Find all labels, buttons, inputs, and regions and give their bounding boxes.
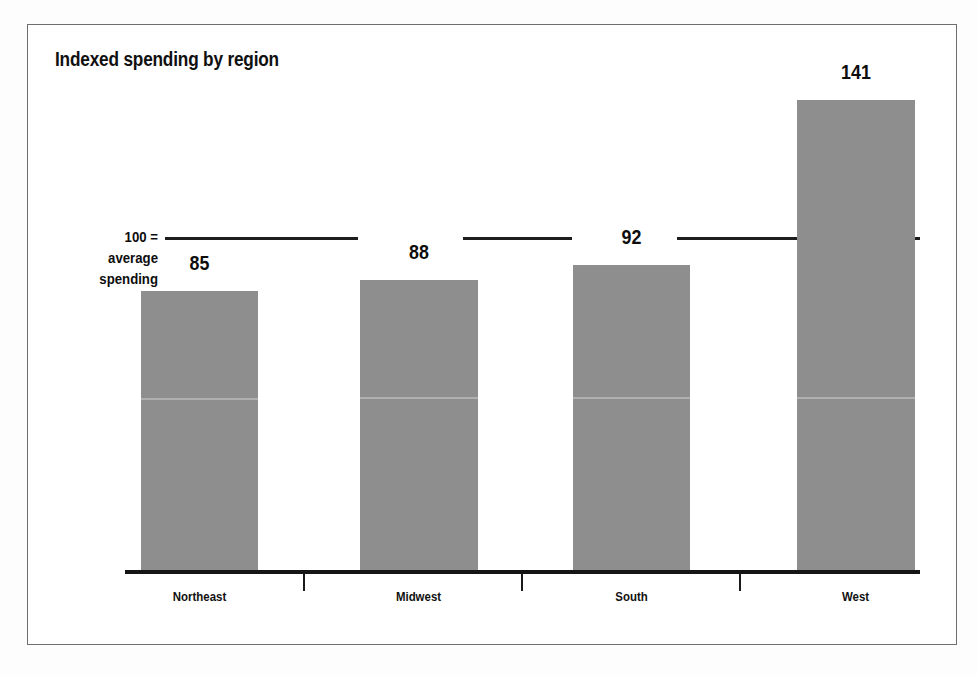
reference-line-segment: [677, 237, 797, 240]
plot-area: 100 = average spending 85 88 92 141 Nort…: [0, 0, 977, 675]
reference-line-segment: [915, 237, 920, 240]
bar-value-west: 141: [806, 60, 906, 84]
bar-west: [797, 100, 915, 572]
x-axis-label-west: West: [795, 589, 916, 604]
x-axis-tick: [303, 574, 305, 591]
bar-value-northeast: 85: [150, 251, 249, 275]
bar-midwest: [360, 280, 478, 572]
reference-line-label: 100 = average spending: [51, 226, 158, 289]
x-axis-tick: [739, 574, 741, 591]
bar-value-midwest: 88: [369, 240, 469, 264]
x-axis-tick: [521, 574, 523, 591]
bar-value-south: 92: [582, 225, 681, 249]
reference-line-value: 100 =: [51, 226, 158, 247]
x-axis-label-northeast: Northeast: [139, 589, 260, 604]
bar-south: [573, 265, 690, 572]
bar-northeast: [141, 291, 258, 572]
chart-canvas: Indexed spending by region 100 = average…: [0, 0, 977, 675]
reference-line-segment: [165, 237, 358, 240]
reference-line-caption-2: spending: [51, 268, 158, 289]
x-axis-label-midwest: Midwest: [358, 589, 479, 604]
reference-line-segment: [463, 237, 572, 240]
reference-line-caption-1: average: [51, 247, 158, 268]
x-axis-label-south: South: [571, 589, 692, 604]
